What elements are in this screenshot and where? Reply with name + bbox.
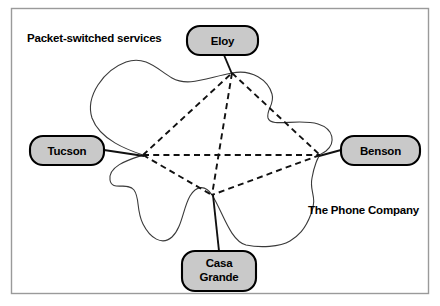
node-tucson[interactable]: Tucson <box>30 136 104 165</box>
node-eloy[interactable]: Eloy <box>187 26 258 55</box>
node-eloy-label: Eloy <box>211 35 235 47</box>
packet-switched-network-diagram: Eloy Tucson Benson Casa Grande Packet-sw… <box>0 0 440 306</box>
node-casa-grande-label-line1: Casa <box>206 257 233 269</box>
node-casa-grande-label-line2: Grande <box>199 271 238 283</box>
cloud-label: The Phone Company <box>308 204 420 216</box>
node-tucson-label: Tucson <box>48 145 87 157</box>
node-casa-grande[interactable]: Casa Grande <box>182 251 256 291</box>
diagram-title: Packet-switched services <box>27 32 162 44</box>
node-benson[interactable]: Benson <box>341 136 420 165</box>
node-benson-label: Benson <box>360 145 401 157</box>
